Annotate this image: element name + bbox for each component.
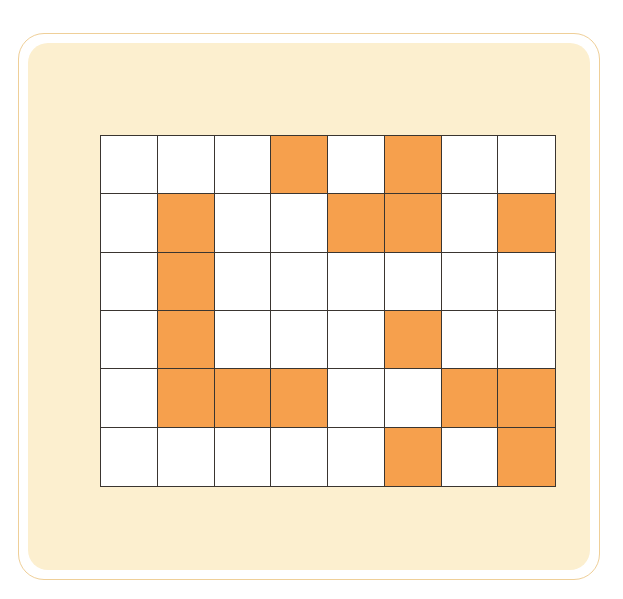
grid-cell-empty xyxy=(271,194,328,252)
grid-cell-filled xyxy=(498,369,555,427)
grid-cell-empty xyxy=(215,311,272,369)
grid-cell-empty xyxy=(271,428,328,486)
grid-cell-empty xyxy=(271,311,328,369)
grid-cell-empty xyxy=(498,311,555,369)
grid-cell-filled xyxy=(158,253,215,311)
grid-cell-empty xyxy=(385,253,442,311)
grid-cell-empty xyxy=(328,428,385,486)
grid-cell-empty xyxy=(101,136,158,194)
shaded-grid xyxy=(100,135,556,487)
grid-cell-empty xyxy=(101,253,158,311)
grid-cell-empty xyxy=(442,311,499,369)
grid-cell-empty xyxy=(101,369,158,427)
grid-cell-filled xyxy=(328,194,385,252)
grid-cell-empty xyxy=(442,194,499,252)
grid-cell-empty xyxy=(442,253,499,311)
grid-cell-empty xyxy=(215,136,272,194)
grid-cell-empty xyxy=(215,428,272,486)
grid-cell-empty xyxy=(442,428,499,486)
grid-cell-filled xyxy=(442,369,499,427)
grid-cell-empty xyxy=(498,253,555,311)
grid-cell-empty xyxy=(101,194,158,252)
grid-cell-filled xyxy=(158,369,215,427)
grid-cell-empty xyxy=(442,136,499,194)
grid-cell-filled xyxy=(385,311,442,369)
grid-cell-filled xyxy=(271,369,328,427)
grid-cell-filled xyxy=(498,428,555,486)
grid-cell-empty xyxy=(215,253,272,311)
grid-cell-empty xyxy=(328,311,385,369)
grid-cell-filled xyxy=(385,136,442,194)
grid-cell-filled xyxy=(215,369,272,427)
grid-cell-empty xyxy=(158,428,215,486)
grid-cell-empty xyxy=(101,428,158,486)
grid-cell-filled xyxy=(271,136,328,194)
grid-cell-filled xyxy=(498,194,555,252)
grid-cell-filled xyxy=(385,428,442,486)
grid-cell-empty xyxy=(328,253,385,311)
grid-cell-filled xyxy=(385,194,442,252)
grid-cell-filled xyxy=(158,194,215,252)
grid-cell-filled xyxy=(158,311,215,369)
grid-cell-empty xyxy=(271,253,328,311)
grid-cell-empty xyxy=(101,311,158,369)
grid-cell-empty xyxy=(498,136,555,194)
grid-cell-empty xyxy=(385,369,442,427)
grid-cell-empty xyxy=(328,136,385,194)
grid-cell-empty xyxy=(328,369,385,427)
grid-cell-empty xyxy=(215,194,272,252)
grid-cell-empty xyxy=(158,136,215,194)
